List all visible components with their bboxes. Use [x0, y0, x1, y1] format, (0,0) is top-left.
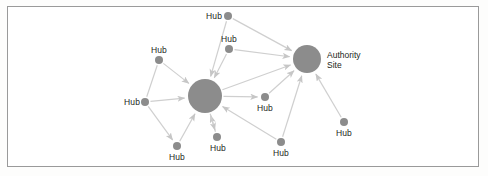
graph-node-hub[interactable] [213, 133, 221, 141]
graph-edge [163, 63, 189, 83]
graph-edge [210, 114, 215, 130]
nodes-layer [141, 12, 348, 150]
graph-node-hub[interactable] [224, 12, 232, 20]
hub-node-label: Hub [210, 143, 226, 153]
hub-node-label: Hub [169, 152, 185, 162]
graph-edge [147, 65, 158, 97]
hub-node-label: Hub [273, 148, 289, 158]
graph-edge [150, 98, 184, 101]
hub-node-label: Hub [221, 34, 237, 44]
graph-node-hub[interactable] [261, 93, 269, 101]
graph-edge [180, 114, 195, 141]
graph-node-hub[interactable] [340, 118, 348, 126]
hub-node-label: Hub [151, 45, 167, 55]
hub-node-label: Hub [206, 11, 222, 21]
graph-node-hub[interactable] [225, 45, 233, 53]
graph-edge [224, 96, 258, 97]
hub-node-label: Hub [257, 103, 273, 113]
graph-edge [222, 65, 290, 90]
graph-node-hub[interactable] [173, 142, 181, 150]
graph-node-authority[interactable] [293, 45, 321, 73]
authority-site-label-line: Authority [327, 50, 361, 60]
hub-node-label: Hub [336, 128, 352, 138]
graph-node-hub-major[interactable] [188, 79, 222, 113]
edges-layer [147, 19, 341, 142]
graph-node-hub[interactable] [141, 98, 149, 106]
graph-node-hub[interactable] [155, 56, 163, 64]
graph-edge [233, 19, 292, 51]
graph-edge [269, 71, 294, 94]
network-graph [0, 0, 488, 176]
authority-site-label-line: Site [327, 60, 361, 70]
figure-container: HubHubHubHubHubHubHubHubHubAuthoritySite [0, 0, 488, 176]
graph-edge [283, 76, 302, 137]
graph-edge [234, 50, 289, 57]
graph-edge [148, 106, 172, 139]
graph-edge [316, 74, 341, 117]
graph-node-hub[interactable] [277, 138, 285, 146]
hub-node-label: Hub [124, 97, 140, 107]
graph-edge [211, 21, 227, 76]
authority-site-label: AuthoritySite [327, 50, 361, 70]
